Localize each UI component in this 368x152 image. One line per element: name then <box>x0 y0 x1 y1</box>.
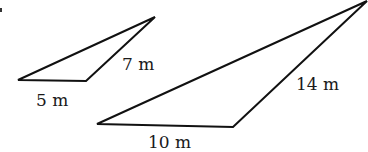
similar-triangles-diagram: 5 m 7 m 10 m 14 m <box>0 0 368 152</box>
small-triangle-side-label: 7 m <box>122 54 154 74</box>
large-triangle-side-label: 14 m <box>296 74 339 94</box>
large-triangle-base-label: 10 m <box>148 132 191 152</box>
cropped-mark <box>0 8 2 12</box>
small-triangle-base-label: 5 m <box>36 90 68 110</box>
